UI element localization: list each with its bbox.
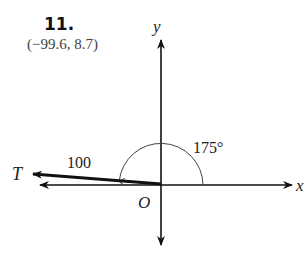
- angle-label: 175°: [193, 139, 223, 156]
- magnitude-label: 100: [67, 154, 91, 171]
- vector-t: [33, 174, 161, 184]
- vector-diagram: y x O T 100 175°: [0, 0, 305, 261]
- y-axis-label: y: [151, 17, 161, 36]
- origin-label: O: [138, 193, 150, 212]
- vector-t-label: T: [12, 164, 24, 184]
- x-axis-label: x: [295, 176, 304, 195]
